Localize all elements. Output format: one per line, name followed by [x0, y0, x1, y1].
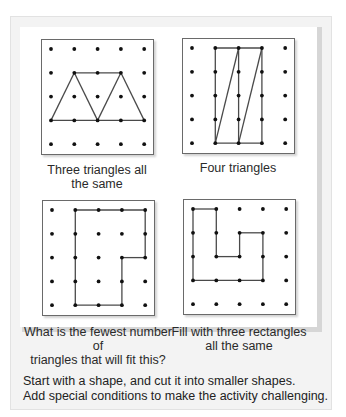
- peg-dot: [143, 208, 147, 212]
- peg-dot: [283, 141, 287, 145]
- caption-fewest-triangles: What is the fewest number of triangles t…: [18, 325, 178, 367]
- peg-dot: [72, 95, 76, 99]
- card-shadow-right: [317, 27, 322, 332]
- peg-dot: [119, 119, 123, 123]
- peg-dot: [284, 231, 288, 235]
- peg-dot: [190, 118, 194, 122]
- band-line: [74, 73, 97, 121]
- band-line: [121, 73, 144, 121]
- peg-dot: [283, 118, 287, 122]
- caption-line: the same: [17, 177, 177, 191]
- peg-dot: [120, 280, 124, 284]
- peg-dot: [49, 71, 53, 75]
- dot-grid: [43, 201, 154, 315]
- peg-dot: [238, 302, 242, 306]
- peg-dot: [119, 142, 123, 146]
- peg-dot: [191, 279, 195, 283]
- peg-dot: [96, 95, 100, 99]
- dot-grid: [183, 39, 294, 153]
- peg-dot: [238, 207, 242, 211]
- peg-dot: [237, 46, 241, 50]
- peg-dot: [190, 70, 194, 74]
- peg-dot: [142, 47, 146, 51]
- peg-dot: [261, 207, 265, 211]
- instructions-line-1: Start with a shape, and cut it into smal…: [23, 374, 328, 389]
- peg-dot: [190, 94, 194, 98]
- peg-dot: [214, 302, 218, 306]
- peg-dot: [119, 95, 123, 99]
- caption-line: triangles that will fit this?: [18, 353, 178, 367]
- peg-dot: [238, 255, 242, 259]
- peg-dot: [261, 231, 265, 235]
- instructions-line-2: Add special conditions to make the activ…: [23, 389, 328, 404]
- peg-dot: [50, 280, 54, 284]
- peg-dot: [284, 207, 288, 211]
- peg-dot: [49, 95, 53, 99]
- peg-dot: [191, 302, 195, 306]
- peg-dot: [49, 142, 53, 146]
- peg-dot: [283, 46, 287, 50]
- peg-dot: [72, 142, 76, 146]
- geoboard-fewest-triangles: [42, 200, 155, 316]
- peg-dot: [120, 256, 124, 260]
- peg-dot: [261, 255, 265, 259]
- peg-dot: [237, 94, 241, 98]
- peg-dot: [261, 302, 265, 306]
- peg-dot: [120, 208, 124, 212]
- peg-dot: [260, 94, 264, 98]
- peg-dot: [214, 279, 218, 283]
- peg-dot: [284, 302, 288, 306]
- peg-dot: [237, 118, 241, 122]
- peg-dot: [214, 207, 218, 211]
- peg-dot: [49, 119, 53, 123]
- band-line: [51, 73, 74, 121]
- geoboard-three-rectangles: [183, 199, 296, 315]
- peg-dot: [142, 142, 146, 146]
- peg-dot: [96, 119, 100, 123]
- peg-dot: [191, 207, 195, 211]
- band-line: [239, 48, 262, 143]
- caption-line: Fill with three rectangles: [159, 325, 319, 339]
- peg-dot: [72, 119, 76, 123]
- peg-dot: [142, 119, 146, 123]
- peg-dot: [260, 141, 264, 145]
- peg-dot: [238, 231, 242, 235]
- peg-dot: [50, 303, 54, 307]
- caption-three-triangles: Three triangles all the same: [17, 163, 177, 191]
- peg-dot: [261, 279, 265, 283]
- peg-dot: [142, 95, 146, 99]
- peg-dot: [143, 256, 147, 260]
- peg-dot: [214, 255, 218, 259]
- peg-dot: [213, 141, 217, 145]
- peg-dot: [50, 232, 54, 236]
- caption-line: Four triangles: [158, 161, 318, 175]
- band-line: [215, 48, 238, 143]
- peg-dot: [213, 94, 217, 98]
- peg-dot: [73, 280, 77, 284]
- peg-dot: [190, 46, 194, 50]
- caption-line: What is the fewest number of: [18, 325, 178, 353]
- peg-dot: [119, 71, 123, 75]
- peg-dot: [142, 71, 146, 75]
- peg-dot: [49, 47, 53, 51]
- peg-dot: [97, 232, 101, 236]
- peg-dot: [260, 70, 264, 74]
- peg-dot: [214, 231, 218, 235]
- peg-dot: [143, 280, 147, 284]
- peg-dot: [97, 208, 101, 212]
- peg-dot: [213, 70, 217, 74]
- peg-dot: [72, 47, 76, 51]
- peg-dot: [143, 303, 147, 307]
- peg-dot: [284, 279, 288, 283]
- peg-dot: [237, 70, 241, 74]
- instructions-text: Start with a shape, and cut it into smal…: [23, 374, 328, 404]
- peg-dot: [213, 46, 217, 50]
- peg-dot: [97, 280, 101, 284]
- peg-dot: [238, 279, 242, 283]
- peg-dot: [191, 255, 195, 259]
- peg-dot: [120, 232, 124, 236]
- peg-dot: [50, 208, 54, 212]
- peg-dot: [73, 256, 77, 260]
- peg-dot: [283, 94, 287, 98]
- peg-dot: [73, 303, 77, 307]
